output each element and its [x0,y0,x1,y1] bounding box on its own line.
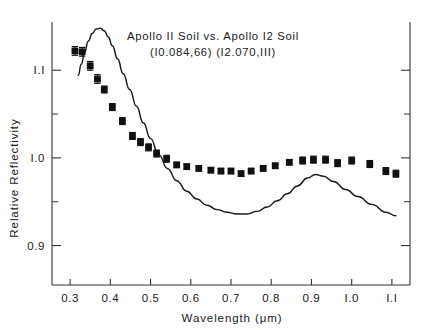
data-point [248,168,255,175]
square-marker [322,156,329,163]
x-tick-label: 0.8 [262,292,280,304]
square-marker [101,86,108,93]
data-point [322,156,329,163]
square-marker [163,155,170,162]
data-point [153,150,160,157]
data-point [382,168,389,175]
x-tick-label: I.0 [344,292,359,304]
square-marker [145,144,152,151]
data-point [145,144,152,151]
square-marker [87,62,94,69]
x-axis-title: Wavelength (μm) [182,312,283,324]
reflectivity-chart: Apollo II Soil vs. Apollo I2 Soil (I0.08… [0,0,421,330]
square-marker [129,133,136,140]
square-marker [299,157,306,164]
data-point [109,104,116,111]
data-point [272,162,279,169]
data-point [195,165,202,172]
x-tick-label: 0.6 [182,292,200,304]
data-point [286,159,293,166]
y-tick-label: I.0 [30,152,45,164]
square-marker [310,156,317,163]
data-point [183,163,190,170]
data-point [79,47,86,56]
data-point [218,168,225,175]
chart-title-line-2: (I0.084,66) (I2.070,III) [150,46,276,58]
data-point [119,118,126,125]
data-point [334,160,341,167]
square-marker [72,48,79,55]
square-marker [348,157,355,164]
square-marker [272,162,279,169]
data-point [129,132,136,139]
data-point [163,155,170,162]
data-point [207,167,214,174]
x-tick-label: 0.4 [101,292,119,304]
data-point [299,157,306,164]
x-tick-label: 0.9 [303,292,321,304]
x-tick-label: 0.7 [222,292,240,304]
square-marker [218,168,225,175]
y-axis-title: Relative Reflectivity [8,118,20,237]
figure-container: Apollo II Soil vs. Apollo I2 Soil (I0.08… [0,0,421,330]
data-point [310,156,317,163]
square-marker [94,76,101,83]
chart-title-group: Apollo II Soil vs. Apollo I2 Soil (I0.08… [127,30,299,58]
chart-title-line-1: Apollo II Soil vs. Apollo I2 Soil [127,30,299,42]
data-point [94,75,101,84]
square-marker [119,118,126,125]
square-marker [183,163,190,170]
square-marker [334,160,341,167]
y-tick-label: I.I [34,64,45,76]
square-marker [393,170,400,177]
data-point [348,157,355,164]
data-point [101,86,108,93]
axes-group [52,22,410,285]
square-marker [248,168,255,175]
square-marker [260,165,267,172]
data-point [228,168,235,175]
square-marker [137,139,144,146]
data-point [87,61,94,70]
data-point [366,161,373,168]
square-marker [366,161,373,168]
square-marker [79,48,86,55]
data-point [260,165,267,172]
square-marker [228,168,235,175]
square-marker [238,170,245,177]
data-point [393,170,400,177]
square-marker [195,165,202,172]
tick-labels-group: 0.30.40.50.60.70.80.9I.0I.I0.9I.0I.I [27,64,397,304]
square-marker [109,104,116,111]
square-marker [286,159,293,166]
data-point [238,170,245,177]
square-marker [153,150,160,157]
data-point [173,161,180,168]
y-tick-label: 0.9 [27,240,45,252]
square-marker [173,161,180,168]
x-tick-label: 0.5 [142,292,160,304]
square-marker [382,168,389,175]
x-tick-label: I.I [386,292,397,304]
x-tick-label: 0.3 [61,292,79,304]
data-point [72,47,79,56]
data-point [137,139,144,146]
square-marker [207,167,214,174]
